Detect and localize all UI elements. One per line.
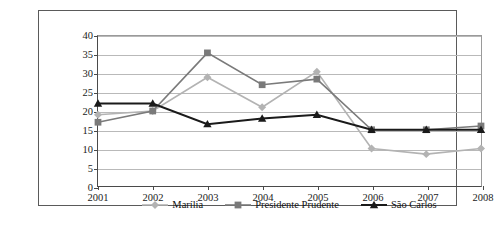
legend-swatch-square <box>225 200 251 210</box>
x-axis-tick-mark <box>483 186 484 190</box>
series-triangle <box>94 99 485 133</box>
y-axis-tick-label: 10 <box>83 145 94 156</box>
legend-item[interactable]: São Carlos <box>361 200 437 211</box>
data-point-marker <box>259 81 266 88</box>
legend-swatch-triangle <box>361 200 387 210</box>
y-axis-tick-label: 30 <box>83 69 94 80</box>
series-layer <box>98 36 481 186</box>
x-axis-tick-mark <box>98 186 99 190</box>
data-point-marker <box>258 103 266 111</box>
x-axis-tick-mark <box>208 186 209 190</box>
legend-swatch-diamond <box>142 200 168 210</box>
x-axis-tick-mark <box>318 186 319 190</box>
x-axis-tick-mark <box>153 186 154 190</box>
plot-area: 0510152025303540 20012002200320042005200… <box>97 35 482 187</box>
y-axis-tick-label: 35 <box>83 50 94 61</box>
data-point-marker <box>203 73 211 81</box>
data-point-marker <box>151 201 159 209</box>
y-axis-tick-label: 5 <box>88 164 93 175</box>
series-square <box>95 50 485 134</box>
y-axis-tick-label: 20 <box>83 107 94 118</box>
figure-frame: 0510152025303540 20012002200320042005200… <box>38 10 457 206</box>
data-point-marker <box>149 108 156 115</box>
y-axis-tick-label: 40 <box>83 31 94 42</box>
y-axis-tick-label: 15 <box>83 126 94 137</box>
legend-item[interactable]: Marília <box>142 200 203 211</box>
legend-label: Marília <box>172 200 203 211</box>
legend-label: Presidente Prudente <box>255 200 339 211</box>
cut-off-caption-fragment <box>4 221 424 229</box>
data-point-marker <box>204 50 211 57</box>
legend-label: São Carlos <box>391 200 437 211</box>
y-axis-tick-label: 25 <box>83 88 94 99</box>
data-point-marker <box>477 145 485 153</box>
x-axis-tick-mark <box>263 186 264 190</box>
x-axis-tick-mark <box>428 186 429 190</box>
chart-legend: MaríliaPresidente PrudenteSão Carlos <box>97 197 482 213</box>
legend-item[interactable]: Presidente Prudente <box>225 200 339 211</box>
x-axis-tick-mark <box>373 186 374 190</box>
data-point-marker <box>235 202 242 209</box>
data-point-marker <box>95 119 102 126</box>
data-point-marker <box>313 76 320 83</box>
data-point-marker <box>422 150 430 158</box>
series-line <box>98 53 481 130</box>
